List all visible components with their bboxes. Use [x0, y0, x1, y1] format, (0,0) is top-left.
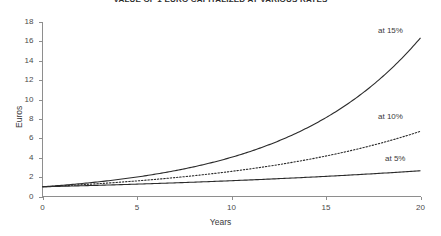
series-label: at 5% [385, 154, 405, 163]
x-tick-marks [44, 197, 422, 201]
x-axis-label: Years [0, 217, 441, 227]
y-tick-label: 0 [16, 192, 34, 201]
series-curves [43, 38, 421, 187]
series-label: at 10% [378, 112, 403, 121]
x-tick-label: 10 [222, 203, 242, 212]
y-tick-label: 4 [16, 153, 34, 162]
y-tick-label: 2 [16, 172, 34, 181]
y-tick-label: 18 [16, 17, 34, 26]
y-tick-label: 14 [16, 56, 34, 65]
x-tick-label: 15 [316, 203, 336, 212]
x-tick-label: 5 [127, 203, 147, 212]
series-label: at 15% [378, 26, 403, 35]
series-curve-10 [43, 131, 421, 187]
series-curve-5 [43, 171, 421, 187]
y-tick-label: 6 [16, 133, 34, 142]
y-tick-marks [39, 23, 43, 198]
chart-figure: VALUE OF 1 EURO CAPITALIZED AT VARIOUS R… [0, 0, 441, 236]
plot-area [0, 0, 441, 236]
y-axis-label: Euros [14, 106, 24, 128]
axes [43, 22, 421, 197]
series-curve-15 [43, 38, 421, 187]
y-tick-label: 10 [16, 95, 34, 104]
x-tick-label: 20 [411, 203, 431, 212]
y-tick-label: 16 [16, 36, 34, 45]
x-tick-label: 0 [33, 203, 53, 212]
y-tick-label: 12 [16, 75, 34, 84]
